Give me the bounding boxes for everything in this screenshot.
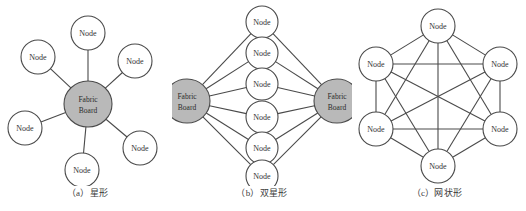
mesh-topology-diagram: NodeNodeNodeNodeNodeNode bbox=[348, 0, 526, 186]
edge-hub-to-node-5 bbox=[106, 119, 127, 137]
edge-node1-node4 bbox=[385, 41, 429, 115]
panel-dual-star: FabricBoardFabricBoardNodeNodeNodeNodeNo… bbox=[172, 0, 352, 211]
node-b-2-label: Node bbox=[253, 49, 271, 58]
edge-node2-node6 bbox=[385, 79, 429, 152]
node-b-1-label: Node bbox=[253, 18, 271, 27]
edge-node4-node6 bbox=[391, 138, 424, 158]
hub-a-center[interactable] bbox=[64, 81, 112, 127]
edge-node3-node6 bbox=[447, 79, 491, 152]
hub-b-left[interactable] bbox=[172, 79, 210, 123]
edge-hub2-to-node-2 bbox=[275, 62, 317, 89]
node-b-6-label: Node bbox=[253, 172, 271, 181]
node-c-4-label: Node bbox=[367, 125, 385, 134]
hub-b-left-label-line1: Fabric bbox=[177, 92, 197, 101]
edge-hub-to-node-6 bbox=[84, 127, 86, 153]
node-c-1-label: Node bbox=[429, 22, 447, 31]
caption-mesh: （c）网状形 bbox=[348, 186, 526, 200]
node-c-6-label: Node bbox=[429, 162, 447, 171]
star-nodes: FabricBoardNodeNodeNodeNodeNodeNode bbox=[8, 16, 157, 186]
dual-star-topology-diagram: FabricBoardFabricBoardNodeNodeNodeNodeNo… bbox=[172, 0, 352, 186]
hub-b-right[interactable] bbox=[314, 79, 352, 123]
node-b-3-label: Node bbox=[253, 80, 271, 89]
edge-hub-to-node-4 bbox=[41, 112, 66, 121]
edge-hub2-to-node-1 bbox=[273, 34, 322, 85]
node-b-4-label: Node bbox=[253, 113, 271, 122]
node-a-5-label: Node bbox=[131, 144, 149, 153]
edge-hub1-to-node-6 bbox=[203, 117, 251, 165]
node-b-5-label: Node bbox=[253, 144, 271, 153]
mesh-edges bbox=[376, 35, 500, 157]
edge-hub1-to-node-1 bbox=[202, 34, 251, 85]
panel-star: FabricBoardNodeNodeNodeNodeNodeNode （a）星… bbox=[0, 0, 175, 211]
caption-star: （a）星形 bbox=[0, 186, 175, 200]
node-a-6-label: Node bbox=[73, 166, 91, 175]
edge-hub2-to-node-6 bbox=[273, 117, 321, 165]
edge-node1-node3 bbox=[452, 35, 485, 55]
edge-node1-node2 bbox=[390, 35, 423, 55]
caption-dual-star: （b）双星形 bbox=[172, 186, 352, 200]
edge-node5-node6 bbox=[453, 138, 486, 158]
node-c-3-label: Node bbox=[491, 60, 509, 69]
edge-hub2-to-node-3 bbox=[278, 88, 315, 96]
edge-hub1-to-node-2 bbox=[206, 62, 248, 89]
node-a-4-label: Node bbox=[16, 124, 34, 133]
node-a-1-label: Node bbox=[79, 29, 97, 38]
node-a-2-label: Node bbox=[29, 53, 47, 62]
edge-hub2-to-node-4 bbox=[278, 106, 315, 114]
dual-star-nodes: FabricBoardFabricBoardNodeNodeNodeNodeNo… bbox=[172, 6, 352, 186]
node-c-2-label: Node bbox=[367, 60, 385, 69]
star-topology-diagram: FabricBoardNodeNodeNodeNodeNodeNode bbox=[0, 0, 175, 186]
node-c-5-label: Node bbox=[491, 125, 509, 134]
edge-hub-to-node-3 bbox=[105, 72, 122, 88]
hub-b-right-label-line2: Board bbox=[328, 103, 347, 112]
edge-hub1-to-node-4 bbox=[209, 106, 246, 114]
hub-a-center-label-line2: Board bbox=[79, 106, 98, 115]
edge-hub-to-node-2 bbox=[50, 69, 70, 88]
edge-node1-node5 bbox=[447, 41, 491, 115]
node-a-3-label: Node bbox=[126, 57, 144, 66]
hub-a-center-label-line1: Fabric bbox=[78, 95, 98, 104]
hub-b-right-label-line1: Fabric bbox=[327, 92, 347, 101]
panel-mesh: NodeNodeNodeNodeNodeNode （c）网状形 bbox=[348, 0, 526, 211]
hub-b-left-label-line2: Board bbox=[178, 103, 197, 112]
topology-figure: FabricBoardNodeNodeNodeNodeNodeNode （a）星… bbox=[0, 0, 526, 211]
edge-hub1-to-node-3 bbox=[209, 88, 246, 96]
